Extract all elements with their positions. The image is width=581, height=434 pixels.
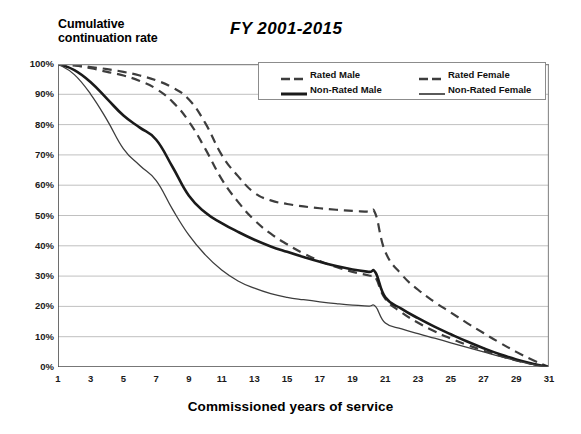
legend-item[interactable]: Non-Rated Male bbox=[281, 82, 382, 97]
plot-svg bbox=[58, 64, 549, 367]
y-tick-label: 100% bbox=[14, 59, 54, 69]
y-tick-label: 0% bbox=[14, 362, 54, 372]
legend-label: Rated Female bbox=[448, 70, 510, 80]
x-tick-label: 31 bbox=[537, 373, 561, 384]
gridlines bbox=[58, 64, 549, 337]
legend-item[interactable]: Rated Male bbox=[281, 67, 360, 82]
legend-swatch-icon bbox=[419, 70, 445, 80]
y-tick-label: 40% bbox=[14, 241, 54, 251]
legend-label: Rated Male bbox=[310, 70, 360, 80]
x-tick-label: 21 bbox=[373, 373, 397, 384]
chart-container: Cumulative continuation rate FY 2001-201… bbox=[0, 0, 581, 434]
x-tick-label: 23 bbox=[406, 373, 430, 384]
legend-label: Non-Rated Male bbox=[310, 85, 382, 95]
x-tick-label: 9 bbox=[177, 373, 201, 384]
x-tick-label: 15 bbox=[275, 373, 299, 384]
y-tick-label: 70% bbox=[14, 150, 54, 160]
legend-item[interactable]: Non-Rated Female bbox=[419, 82, 531, 97]
y-axis-tick-labels: 0%10%20%30%40%50%60%70%80%90%100% bbox=[10, 64, 54, 367]
y-tick-label: 30% bbox=[14, 271, 54, 281]
y-axis-title: Cumulative continuation rate bbox=[58, 17, 238, 45]
legend-swatch-icon bbox=[281, 85, 307, 95]
x-axis-title: Commissioned years of service bbox=[0, 399, 581, 414]
chart-title: FY 2001-2015 bbox=[230, 19, 342, 39]
legend-label: Non-Rated Female bbox=[448, 85, 531, 95]
legend-item[interactable]: Rated Female bbox=[419, 67, 510, 82]
legend: Rated MaleRated FemaleNon-Rated MaleNon-… bbox=[258, 62, 546, 100]
y-axis-title-line2: continuation rate bbox=[58, 31, 238, 45]
y-tick-label: 80% bbox=[14, 120, 54, 130]
y-tick-label: 90% bbox=[14, 89, 54, 99]
x-tick-label: 19 bbox=[341, 373, 365, 384]
x-axis-tick-labels: 135791113151719212325272931 bbox=[58, 373, 549, 389]
y-tick-label: 10% bbox=[14, 332, 54, 342]
x-tick-label: 11 bbox=[210, 373, 234, 384]
x-tick-label: 29 bbox=[504, 373, 528, 384]
y-tick-label: 60% bbox=[14, 180, 54, 190]
y-tick-label: 50% bbox=[14, 211, 54, 221]
x-tick-label: 3 bbox=[79, 373, 103, 384]
x-tick-label: 1 bbox=[46, 373, 70, 384]
y-tick-label: 20% bbox=[14, 301, 54, 311]
legend-swatch-icon bbox=[419, 85, 445, 95]
x-tick-label: 27 bbox=[472, 373, 496, 384]
x-tick-label: 17 bbox=[308, 373, 332, 384]
legend-swatch-icon bbox=[281, 70, 307, 80]
x-tick-label: 13 bbox=[242, 373, 266, 384]
x-tick-label: 25 bbox=[439, 373, 463, 384]
y-axis-title-line1: Cumulative bbox=[58, 17, 238, 31]
plot-area bbox=[58, 64, 549, 367]
x-tick-label: 7 bbox=[144, 373, 168, 384]
x-tick-label: 5 bbox=[111, 373, 135, 384]
